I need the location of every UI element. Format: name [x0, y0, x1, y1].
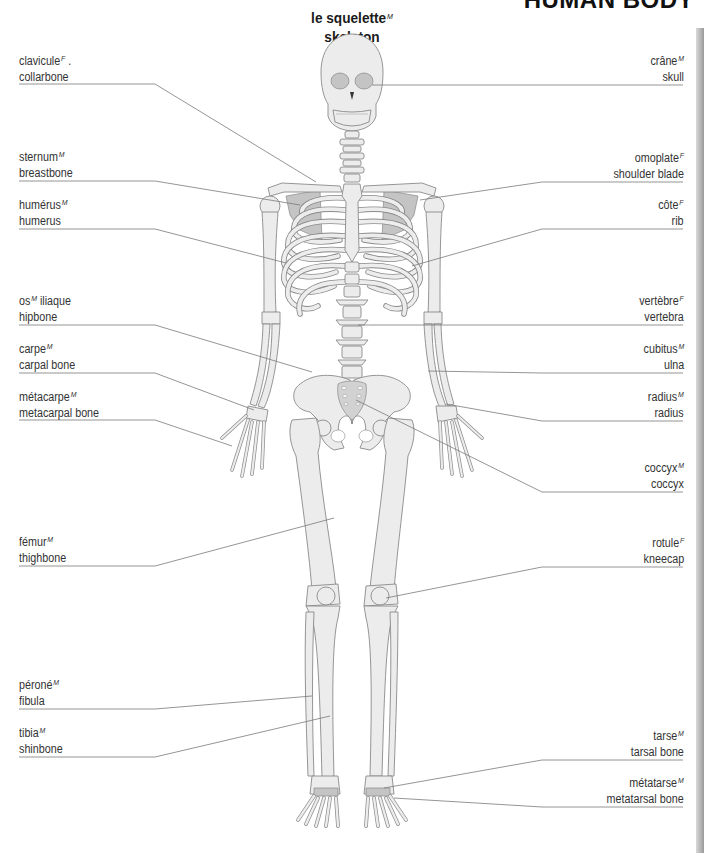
gender-marker: M	[53, 678, 59, 687]
label-vertebra: vertèbreF vertebra	[639, 291, 684, 325]
right-leg	[364, 418, 414, 826]
label-skull: crâneM skull	[651, 51, 684, 85]
label-metatarsal-bone: métatarseM metatarsal bone	[607, 773, 684, 807]
label-radius: radiusM radius	[648, 387, 684, 421]
label-tarsal-bone: tarseM tarsal bone	[631, 726, 684, 760]
gender-marker: F	[680, 294, 684, 303]
label-hipbone: osM iliaque hipbone	[19, 291, 71, 325]
label-shoulder-blade: omoplateF shoulder blade	[613, 148, 684, 182]
gender-marker: M	[62, 198, 68, 207]
label-rib: côteF rib	[659, 195, 684, 229]
right-arm	[424, 196, 482, 476]
skull	[321, 34, 383, 131]
gender-marker: M	[678, 54, 684, 63]
left-leg	[290, 418, 340, 826]
label-carpal-bone: carpeM carpal bone	[19, 339, 75, 373]
label-thighbone: fémurM thighbone	[19, 532, 66, 566]
gender-marker: F	[680, 198, 684, 207]
gender-marker: M	[678, 390, 684, 399]
label-kneecap: rotuleF kneecap	[643, 533, 684, 567]
gender-marker: M	[71, 390, 77, 399]
gender-marker: M	[678, 729, 684, 738]
label-metacarpal-bone: métacarpeM metacarpal bone	[19, 387, 99, 421]
label-ulna: cubitusM ulna	[643, 339, 684, 373]
gender-marker: F	[680, 536, 684, 545]
gender-marker: M	[59, 150, 65, 159]
gender-marker: M	[40, 726, 46, 735]
gender-marker: M	[678, 342, 684, 351]
label-coccyx: coccyxM coccyx	[645, 458, 684, 492]
gender-marker: F	[680, 151, 684, 160]
label-shinbone: tibiaM shinbone	[19, 723, 63, 757]
gender-marker: M	[678, 461, 684, 470]
label-clavicle: claviculeF . collarbone	[19, 51, 71, 85]
label-sternum: sternumM breastbone	[19, 147, 73, 181]
skeleton-illustration: .b { fill: #ececec; stroke: #8a8a8a; str…	[0, 0, 704, 853]
gender-marker: M	[47, 342, 53, 351]
gender-marker: F	[61, 54, 65, 63]
label-fibula: péronéM fibula	[19, 675, 59, 709]
left-arm	[222, 196, 280, 476]
gender-marker: M	[47, 535, 53, 544]
label-humerus: humérusM humerus	[19, 195, 67, 229]
gender-marker: M	[678, 776, 684, 785]
